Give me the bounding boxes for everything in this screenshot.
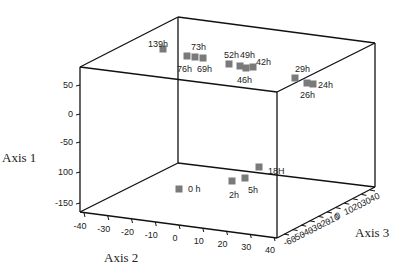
data-point-label: 52h xyxy=(224,50,239,60)
axis3-label: Axis 3 xyxy=(355,225,389,240)
data-point-marker xyxy=(237,63,244,70)
data-point-label: 2h xyxy=(229,190,239,200)
data-points: 139h73h76h69h52h49h46h42h29h26h24h18H5h2… xyxy=(148,39,333,200)
frame-edge xyxy=(178,17,375,43)
data-point-label: 42h xyxy=(256,57,271,67)
data-point-marker xyxy=(229,178,236,185)
axis2-tick-label: 40 xyxy=(265,245,275,255)
data-point-label: 49h xyxy=(240,50,255,60)
axis3-tick xyxy=(284,234,289,235)
axis3-tick xyxy=(336,208,341,209)
axis3-tick xyxy=(310,221,315,222)
data-point-label: 26h xyxy=(300,90,315,100)
axis3-tick xyxy=(301,225,306,226)
axis2-tick-label: -20 xyxy=(121,227,134,237)
data-point-label: 139h xyxy=(148,39,168,49)
axis2-tick xyxy=(108,216,109,220)
axis2-tick-label: -10 xyxy=(145,230,158,240)
frame-edge xyxy=(80,163,178,212)
axis3-tick xyxy=(353,199,358,200)
axis3-tick xyxy=(344,203,349,204)
data-point-label: 0 h xyxy=(188,184,201,194)
data-point-label: 24h xyxy=(318,80,333,90)
axis2-tick xyxy=(84,213,85,217)
data-point-marker xyxy=(310,81,317,88)
data-point-label: 73h xyxy=(191,42,206,52)
data-point-label: 76h xyxy=(177,64,192,74)
axis2-tick-label: -40 xyxy=(73,221,86,231)
axis2-tick xyxy=(132,219,133,223)
axis3-tick xyxy=(318,216,323,217)
axis1-tick-label: 50 xyxy=(63,80,73,90)
axis2-tick-label: -30 xyxy=(97,224,110,234)
scatter-3d-chart: 500-50100-150-40-30-20-10010203040-60-50… xyxy=(0,0,412,276)
data-point-marker xyxy=(184,53,191,60)
data-point-marker xyxy=(292,75,299,82)
axis3-tick-label: 40 xyxy=(368,191,381,204)
axis2-tick-label: 30 xyxy=(241,242,251,252)
axis2-tick-label: 10 xyxy=(194,236,204,246)
axis1-label: Axis 1 xyxy=(2,150,36,165)
data-point-marker xyxy=(304,80,311,87)
data-point-marker xyxy=(176,186,183,193)
data-point-label: 46h xyxy=(237,75,252,85)
axis2-label: Axis 2 xyxy=(104,250,138,265)
data-point-marker xyxy=(256,164,263,171)
data-point-marker xyxy=(192,54,199,61)
axis3-tick xyxy=(327,212,332,213)
data-point-marker xyxy=(200,55,207,62)
axis1-tick-label: 100 xyxy=(58,167,73,177)
data-point-marker xyxy=(226,61,233,68)
axis3-tick xyxy=(361,194,366,195)
data-point-label: 69h xyxy=(197,64,212,74)
axis3-tick xyxy=(370,190,375,191)
axis2-tick-label: 20 xyxy=(217,239,227,249)
axis1-tick-label: -150 xyxy=(55,198,73,208)
data-point-marker xyxy=(242,175,249,182)
axis3-tick xyxy=(293,230,298,231)
data-point-label: 5h xyxy=(248,185,258,195)
data-point-label: 29h xyxy=(295,64,310,74)
axis1-tick-label: -50 xyxy=(60,137,73,147)
data-point-label: 18H xyxy=(268,166,285,176)
axis1-tick-label: 0 xyxy=(68,109,73,119)
data-point-marker xyxy=(243,65,250,72)
axis2-tick-label: 0 xyxy=(172,233,177,243)
